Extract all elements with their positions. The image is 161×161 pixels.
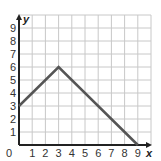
x-tick-label: 8: [122, 147, 128, 159]
origin-label: 0: [6, 147, 12, 159]
x-tick-label: 3: [56, 147, 62, 159]
y-tick-label: 7: [10, 48, 16, 60]
x-tick-label: 7: [108, 147, 114, 159]
x-tick-label: 9: [135, 147, 141, 159]
x-tick-label: 6: [95, 147, 101, 159]
y-tick-label: 1: [10, 126, 16, 138]
x-tick-label: 5: [82, 147, 88, 159]
y-tick-label: 6: [10, 61, 16, 73]
y-tick-label: 4: [10, 87, 16, 99]
axes: [16, 14, 152, 148]
y-tick-label: 3: [10, 100, 16, 112]
line-chart: 123456789123456789 x y 0: [0, 0, 161, 161]
y-tick-label: 2: [10, 113, 16, 125]
tick-labels: 123456789123456789: [10, 22, 141, 159]
x-tick-label: 1: [29, 147, 35, 159]
y-tick-label: 8: [10, 35, 16, 47]
grid: [19, 15, 151, 145]
y-axis-label: y: [22, 13, 30, 25]
y-tick-label: 9: [10, 22, 16, 34]
y-tick-label: 5: [10, 74, 16, 86]
x-axis-label: x: [145, 147, 153, 159]
x-tick-label: 2: [42, 147, 48, 159]
x-tick-label: 4: [69, 147, 75, 159]
